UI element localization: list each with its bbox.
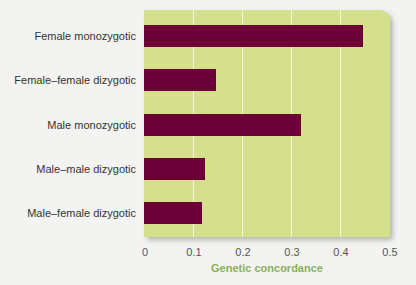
x-tick: 0.1 bbox=[186, 246, 201, 258]
bar-male-monozygotic bbox=[144, 114, 301, 136]
category-label: Male–female dizygotic bbox=[27, 207, 136, 219]
plot-area bbox=[144, 10, 390, 237]
x-tick: 0.3 bbox=[284, 246, 299, 258]
x-tick: 0.4 bbox=[333, 246, 348, 258]
bar-male-male-dizygotic bbox=[144, 158, 205, 180]
bar-male-female-dizygotic bbox=[144, 202, 202, 224]
x-tick: 0.2 bbox=[235, 246, 250, 258]
category-label: Male monozygotic bbox=[47, 119, 136, 131]
x-tick: 0.5 bbox=[382, 246, 397, 258]
x-tick: 0 bbox=[142, 246, 148, 258]
x-axis-label: Genetic concordance bbox=[211, 262, 323, 274]
category-label: Male–male dizygotic bbox=[36, 163, 136, 175]
bar-female-monozygotic bbox=[144, 25, 363, 47]
category-label: Female–female dizygotic bbox=[14, 74, 136, 86]
bar-female-female-dizygotic bbox=[144, 69, 216, 91]
category-label: Female monozygotic bbox=[35, 30, 137, 42]
